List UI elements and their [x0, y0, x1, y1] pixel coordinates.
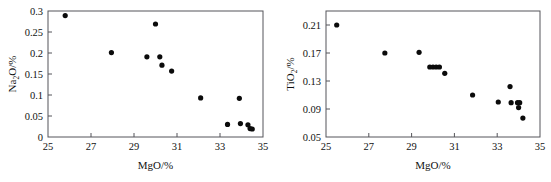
y-axis-tick-label: 0.2 [30, 48, 43, 59]
data-point [109, 50, 114, 55]
x-axis-tick-label: 27 [364, 141, 375, 152]
data-point [63, 13, 68, 18]
y-axis-title: TiO2/% [284, 57, 299, 90]
data-point [169, 68, 174, 73]
data-point [496, 99, 501, 104]
x-axis-title: MgO/% [415, 159, 450, 171]
plot-frame [326, 11, 540, 137]
data-point [517, 100, 522, 105]
na2o-vs-mgo-scatter-chart: 25272931333500.050.10.150.20.250.3MgO/%N… [0, 0, 275, 182]
data-point [520, 116, 525, 121]
y-axis-tick-label: 0.13 [303, 76, 321, 87]
data-point [157, 54, 162, 59]
x-axis-tick-label: 29 [129, 141, 140, 152]
x-axis-tick-label: 25 [321, 141, 332, 152]
scatter-plot-figure: 25272931333500.050.10.150.20.250.3MgO/%N… [0, 0, 551, 182]
data-point [442, 71, 447, 76]
data-point [144, 54, 149, 59]
data-point [225, 122, 230, 127]
data-point [237, 96, 242, 101]
x-axis-tick-label: 35 [258, 141, 269, 152]
y-axis-tick-label: 0.17 [303, 48, 321, 59]
data-point [516, 105, 521, 110]
x-axis-tick-label: 25 [43, 141, 54, 152]
data-point [382, 50, 387, 55]
data-point [198, 95, 203, 100]
x-axis-tick-label: 27 [86, 141, 97, 152]
data-point [507, 84, 512, 89]
x-axis-tick-label: 33 [215, 141, 226, 152]
x-axis-tick-label: 33 [492, 141, 503, 152]
y-axis-title: Na2O/% [6, 56, 21, 93]
data-series [63, 13, 255, 132]
y-axis-tick-label: 0.05 [25, 111, 43, 122]
data-point [334, 22, 339, 27]
y-axis-tick-label: 0.3 [30, 6, 43, 17]
chart-panel-na2o: 25272931333500.050.10.150.20.250.3MgO/%N… [0, 0, 275, 182]
x-axis-tick-label: 31 [449, 141, 460, 152]
y-axis-tick-label: 0.15 [25, 69, 43, 80]
chart-panel-tio2: 2527293133350.050.090.130.170.21MgO/%TiO… [276, 0, 551, 182]
data-point [250, 126, 255, 131]
y-axis-tick-label: 0 [38, 132, 43, 143]
data-series [334, 22, 525, 120]
data-point [437, 64, 442, 69]
x-axis-title: MgO/% [138, 159, 173, 171]
y-axis-tick-label: 0.1 [30, 90, 43, 101]
y-axis-tick-label: 0.21 [303, 20, 321, 31]
y-axis-tick-label: 0.09 [303, 104, 321, 115]
tio2-vs-mgo-scatter-chart: 2527293133350.050.090.130.170.21MgO/%TiO… [276, 0, 551, 182]
x-axis-tick-label: 35 [535, 141, 546, 152]
x-axis-tick-label: 31 [172, 141, 183, 152]
data-point [509, 100, 514, 105]
y-axis-tick-label: 0.25 [25, 27, 43, 38]
data-point [238, 121, 243, 126]
data-point [416, 50, 421, 55]
x-axis-tick-label: 29 [406, 141, 417, 152]
data-point [470, 92, 475, 97]
plot-frame [48, 11, 263, 137]
y-axis-tick-label: 0.05 [303, 132, 321, 143]
data-point [159, 63, 164, 68]
data-point [153, 21, 158, 26]
